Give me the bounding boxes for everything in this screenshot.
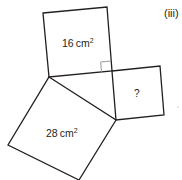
part-label: (iii) (164, 7, 179, 19)
right-angle-marker (101, 61, 111, 72)
pythagoras-squares-diagram: (iii) 16 cm2 ? 28 cm2 (0, 0, 182, 180)
right-square-unknown-label: ? (134, 88, 140, 99)
bottom-square-area-label: 28 cm2 (46, 127, 78, 139)
stray-mark (177, 106, 178, 107)
diagram-canvas: (iii) 16 cm2 ? 28 cm2 (0, 0, 182, 180)
top-square-area-label: 16 cm2 (62, 37, 94, 49)
